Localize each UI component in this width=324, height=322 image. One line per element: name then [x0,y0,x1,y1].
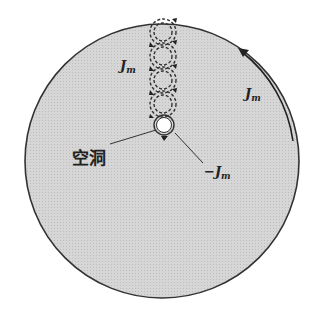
hole-label: 空洞 [72,144,106,169]
loop-current-label: Jm [120,58,136,75]
hole [157,118,172,133]
diagram-canvas [0,0,324,322]
hole-current-label: −Jm [204,164,231,181]
surface-current-label: Jm [245,86,261,103]
